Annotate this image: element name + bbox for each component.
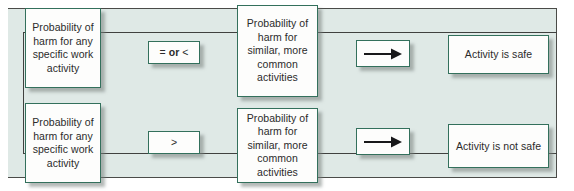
right-arrow-icon — [363, 47, 403, 61]
comparison-box-row2-label: Probability of harm for similar, more co… — [243, 112, 312, 180]
operator-prefix-row1: = — [160, 46, 169, 58]
comparison-box-row2: Probability of harm for similar, more co… — [237, 108, 318, 183]
arrow-box-row2 — [356, 128, 410, 155]
operator-suffix-row1: < — [179, 46, 188, 58]
operator-suffix-row2: > — [171, 136, 177, 148]
comparison-box-row1-label: Probability of harm for similar, more co… — [243, 17, 312, 85]
outcome-box-row1-label: Activity is safe — [461, 48, 536, 61]
connector-row1-left — [100, 32, 245, 33]
arrow-box-row1 — [356, 40, 410, 67]
source-box-row2: Probability of harm for any specific wor… — [25, 103, 101, 183]
diagram-screenshot: Probability of harm for any specific wor… — [0, 0, 574, 191]
operator-box-row2: > — [148, 131, 200, 154]
source-box-row1: Probability of harm for any specific wor… — [25, 8, 101, 88]
comparison-box-row1: Probability of harm for similar, more co… — [237, 5, 318, 97]
operator-box-row1: = or < — [148, 41, 200, 64]
operator-box-row2-label: > — [167, 136, 181, 149]
outcome-box-row1: Activity is safe — [448, 35, 549, 74]
operator-box-row1-label: = or < — [156, 46, 193, 59]
outcome-box-row2-label: Activity is not safe — [452, 140, 545, 153]
connector-row1-right — [313, 32, 557, 33]
left-bracket-vertical — [23, 32, 24, 154]
right-arrow-icon — [363, 135, 403, 149]
outcome-box-row2: Activity is not safe — [448, 124, 549, 168]
source-box-row1-label: Probability of harm for any specific wor… — [28, 21, 97, 75]
operator-emphasis-row1: or — [169, 46, 180, 58]
source-box-row2-label: Probability of harm for any specific wor… — [28, 116, 97, 170]
